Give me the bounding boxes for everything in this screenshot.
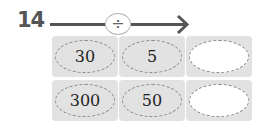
arrow-head-icon bbox=[176, 14, 190, 35]
problem-number: 14 bbox=[17, 8, 44, 32]
answer-cell-r2[interactable] bbox=[186, 80, 252, 121]
answer-input[interactable] bbox=[189, 84, 249, 117]
cell-r1-c1: 30 bbox=[52, 36, 118, 77]
cell-value: 50 bbox=[122, 84, 182, 117]
answer-cell-r1[interactable] bbox=[186, 36, 252, 77]
cell-value: 5 bbox=[122, 40, 182, 73]
cell-r1-c2: 5 bbox=[119, 36, 185, 77]
cell-r2-c2: 50 bbox=[119, 80, 185, 121]
divide-icon: ÷ bbox=[106, 14, 130, 34]
operator-circle: ÷ bbox=[105, 13, 131, 35]
cell-value: 300 bbox=[55, 84, 115, 117]
arrow-line-left bbox=[50, 23, 106, 26]
answer-input[interactable] bbox=[189, 40, 249, 73]
cell-value: 30 bbox=[55, 40, 115, 73]
cell-r2-c1: 300 bbox=[52, 80, 118, 121]
